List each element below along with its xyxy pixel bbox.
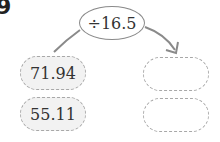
arrowhead-icon (166, 42, 178, 53)
answer-box-1[interactable] (143, 57, 209, 91)
answer-box-2[interactable] (143, 98, 209, 132)
input-value-2: 55.11 (20, 97, 86, 131)
input-value-1: 71.94 (20, 56, 86, 90)
operation-oval: ÷16.5 (79, 6, 145, 40)
